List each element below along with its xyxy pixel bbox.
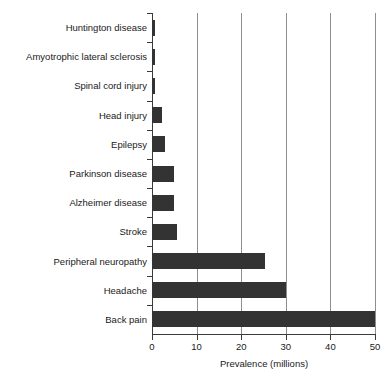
category-label: Parkinson disease bbox=[69, 168, 147, 179]
bar bbox=[152, 20, 155, 36]
bar bbox=[152, 49, 155, 65]
prevalence-bar-chart: Huntington diseaseAmyotrophic lateral sc… bbox=[0, 0, 388, 376]
x-tick-30 bbox=[286, 335, 287, 340]
category-axis-labels: Huntington diseaseAmyotrophic lateral sc… bbox=[0, 0, 147, 376]
x-tick-10 bbox=[197, 335, 198, 340]
bar bbox=[152, 78, 155, 94]
category-label: Stroke bbox=[120, 226, 147, 237]
gridline-50 bbox=[375, 13, 376, 334]
bar bbox=[152, 253, 265, 269]
bar bbox=[152, 107, 162, 123]
x-tick-20 bbox=[241, 335, 242, 340]
bar bbox=[152, 166, 174, 182]
category-label: Epilepsy bbox=[111, 139, 147, 150]
x-tick-label-0: 0 bbox=[149, 341, 154, 352]
x-axis-line bbox=[152, 334, 376, 335]
bar bbox=[152, 311, 375, 327]
x-axis-title: Prevalence (millions) bbox=[152, 358, 376, 369]
x-tick-label-30: 30 bbox=[281, 341, 292, 352]
category-label: Alzheimer disease bbox=[69, 197, 147, 208]
x-tick-0 bbox=[152, 335, 153, 340]
bar bbox=[152, 195, 174, 211]
bar bbox=[152, 224, 177, 240]
category-label: Peripheral neuropathy bbox=[54, 256, 147, 267]
x-tick-label-10: 10 bbox=[191, 341, 202, 352]
x-tick-50 bbox=[375, 335, 376, 340]
plot-area bbox=[152, 13, 375, 334]
category-label: Headache bbox=[104, 285, 147, 296]
x-tick-label-50: 50 bbox=[370, 341, 381, 352]
category-label: Spinal cord injury bbox=[74, 80, 147, 91]
x-tick-label-20: 20 bbox=[236, 341, 247, 352]
category-label: Amyotrophic lateral sclerosis bbox=[26, 51, 147, 62]
x-tick-40 bbox=[330, 335, 331, 340]
category-label: Huntington disease bbox=[66, 22, 147, 33]
category-label: Back pain bbox=[105, 314, 147, 325]
x-tick-label-40: 40 bbox=[325, 341, 336, 352]
bar bbox=[152, 136, 165, 152]
bar bbox=[152, 282, 286, 298]
category-label: Head injury bbox=[99, 110, 147, 121]
